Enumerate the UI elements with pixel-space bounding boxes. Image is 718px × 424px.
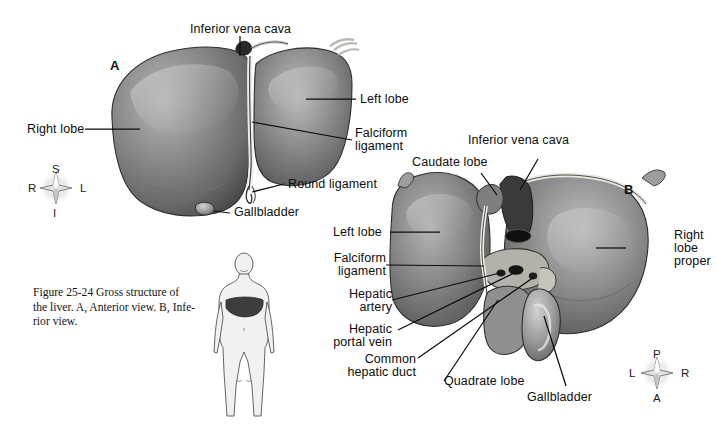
label-hepatic-artery-line1: Hepatic <box>311 287 392 301</box>
label-gallbladder-b: Gallbladder <box>527 390 592 404</box>
label-falciform-ligament-a-line1: Falciform <box>355 126 407 140</box>
compass-a-bottom: I <box>53 207 56 219</box>
label-right-lobe-proper-line3: proper <box>674 254 711 268</box>
label-left-lobe-b: Left lobe <box>333 225 382 239</box>
label-common-hepatic-duct-line2: hepatic duct <box>318 365 416 379</box>
compass-rose-a-art <box>39 171 73 205</box>
panel-b-marker: B <box>624 182 633 197</box>
compass-a-top: S <box>52 163 60 175</box>
human-body-locator <box>214 253 274 416</box>
label-inferior-vena-cava-a: Inferior vena cava <box>190 22 291 36</box>
compass-b-bottom: A <box>653 392 661 404</box>
label-falciform-ligament-b-line1: Falciform <box>311 251 386 265</box>
label-round-ligament-a: Round ligament <box>288 177 377 191</box>
panel-a-marker: A <box>110 58 119 73</box>
label-common-hepatic-duct-line1: Common <box>318 352 416 366</box>
label-caudate-lobe-b: Caudate lobe <box>412 155 488 169</box>
compass-b-right: R <box>681 367 689 379</box>
label-falciform-ligament-b-line2: ligament <box>311 264 386 278</box>
caption-line-1: Figure 25-24 Gross structure of <box>33 286 209 301</box>
label-quadrate-lobe-b: Quadrate lobe <box>444 374 525 388</box>
label-left-lobe-a: Left lobe <box>360 92 409 106</box>
compass-rose-b-art <box>640 356 674 390</box>
label-hepatic-portal-vein-line2: portal vein <box>300 335 392 349</box>
label-hepatic-portal-vein-line1: Hepatic <box>300 322 392 336</box>
label-hepatic-artery-line2: artery <box>311 300 392 314</box>
label-inferior-vena-cava-b: Inferior vena cava <box>468 133 569 147</box>
label-right-lobe-proper-line2: lobe <box>674 241 698 255</box>
caption-line-3: rior view. <box>33 315 209 330</box>
compass-b-top: P <box>653 348 661 360</box>
label-right-lobe-a: Right lobe <box>27 122 84 136</box>
label-right-lobe-proper-line1: Right <box>674 228 704 242</box>
label-falciform-ligament-a-line2: ligament <box>355 139 403 153</box>
compass-a-left: R <box>28 182 36 194</box>
compass-b-left: L <box>629 367 635 379</box>
compass-a-right: L <box>80 182 86 194</box>
figure-caption: Figure 25-24 Gross structure of the live… <box>33 286 209 330</box>
label-gallbladder-a: Gallbladder <box>234 205 299 219</box>
caption-line-2: the liver. A, Anterior view. B, Infe- <box>33 301 209 316</box>
